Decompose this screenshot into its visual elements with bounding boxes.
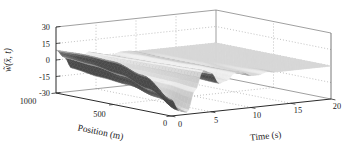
position-tick-label: 0 <box>163 119 167 128</box>
figure-3d-surface-plot: -30-15015300500100005101520 w̃(x̄, t) Po… <box>0 0 349 155</box>
position-tick-label: 1000 <box>20 97 37 106</box>
z-axis-label: w̃(x̄, t) <box>3 48 14 72</box>
z-tick-label: -30 <box>39 89 50 98</box>
surface-plot-canvas: -30-15015300500100005101520 w̃(x̄, t) Po… <box>0 0 349 155</box>
z-tick-label: -15 <box>39 73 50 82</box>
position-axis-label: Position (m) <box>77 123 124 143</box>
time-tick-label: 15 <box>294 106 302 115</box>
time-axis-label: Time (s) <box>250 129 282 143</box>
z-tick-label: 15 <box>42 40 50 49</box>
time-tick-label: 20 <box>333 102 341 111</box>
z-tick-label: 30 <box>42 23 50 32</box>
time-tick-label: 5 <box>214 116 218 125</box>
time-tick-label: 10 <box>253 111 261 120</box>
position-tick-label: 500 <box>93 110 105 119</box>
time-tick-label: 0 <box>178 120 182 129</box>
z-tick-label: 0 <box>46 56 50 65</box>
